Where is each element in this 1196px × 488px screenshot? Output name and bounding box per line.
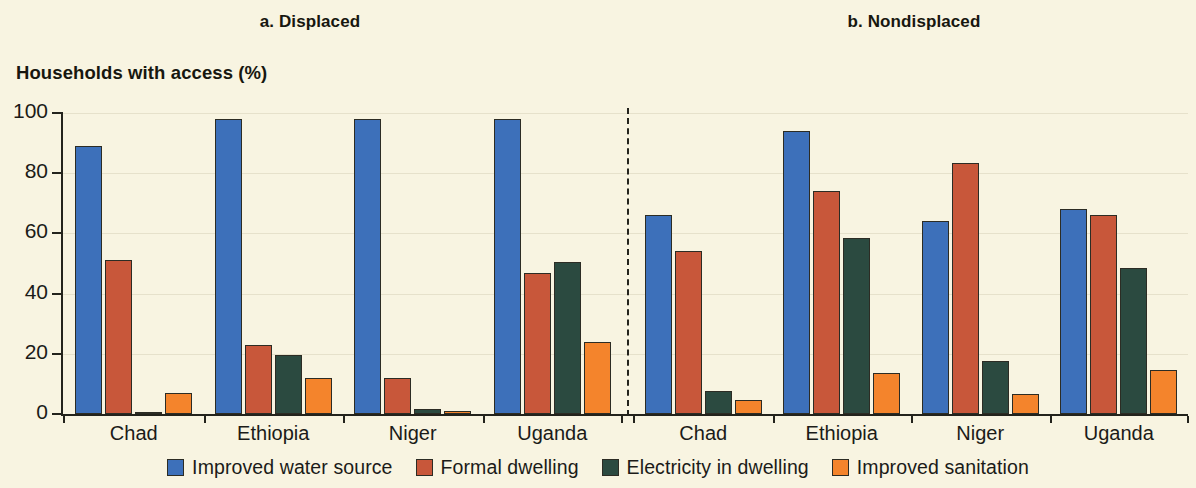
x-tick-label-b-niger: Niger — [911, 422, 1050, 445]
x-tick-mark — [343, 416, 345, 423]
bar-b-niger-improved-water-source — [922, 221, 949, 414]
bar-a-ethiopia-improved-sanitation — [305, 378, 332, 414]
legend-swatch-icon — [602, 459, 619, 476]
y-axis-title: Households with access (%) — [16, 62, 267, 84]
y-tick-label: 40 — [0, 280, 48, 304]
panel-divider — [627, 108, 629, 416]
chart-legend: Improved water sourceFormal dwellingElec… — [0, 456, 1196, 479]
y-tick-label: 0 — [0, 400, 48, 424]
y-tick-label: 60 — [0, 219, 48, 243]
x-tick-label-b-uganda: Uganda — [1050, 422, 1189, 445]
x-axis-line — [61, 414, 1188, 416]
legend-swatch-icon — [416, 459, 433, 476]
bar-b-uganda-improved-sanitation — [1150, 370, 1177, 414]
bar-a-ethiopia-electricity-in-dwelling — [275, 355, 302, 414]
bar-a-ethiopia-formal-dwelling — [245, 345, 272, 414]
chart-figure: a. Displaced b. Nondisplaced Households … — [0, 0, 1196, 488]
bar-a-chad-electricity-in-dwelling — [135, 412, 162, 414]
bar-b-uganda-electricity-in-dwelling — [1120, 268, 1147, 414]
y-tick-mark — [52, 232, 62, 234]
bar-b-ethiopia-formal-dwelling — [813, 191, 840, 414]
x-tick-mark — [911, 416, 913, 423]
legend-label: Formal dwelling — [441, 456, 579, 479]
x-tick-label-a-niger: Niger — [343, 422, 483, 445]
y-axis-line — [61, 112, 63, 416]
x-tick-label-b-ethiopia: Ethiopia — [773, 422, 912, 445]
bar-a-chad-formal-dwelling — [105, 260, 132, 414]
bar-b-chad-electricity-in-dwelling — [705, 391, 732, 414]
y-tick-mark — [52, 353, 62, 355]
x-tick-mark — [63, 416, 65, 423]
legend-item-improved-sanitation[interactable]: Improved sanitation — [832, 456, 1029, 479]
bar-a-niger-improved-water-source — [354, 119, 381, 414]
bar-b-niger-formal-dwelling — [952, 163, 979, 414]
x-tick-label-a-ethiopia: Ethiopia — [204, 422, 344, 445]
bar-b-uganda-formal-dwelling — [1090, 215, 1117, 414]
bar-a-chad-improved-sanitation — [165, 393, 192, 414]
x-tick-mark — [621, 416, 623, 423]
bar-b-chad-formal-dwelling — [675, 251, 702, 414]
bar-b-uganda-improved-water-source — [1060, 209, 1087, 414]
y-tick-mark — [52, 172, 62, 174]
bar-a-niger-improved-sanitation — [444, 411, 471, 414]
legend-label: Electricity in dwelling — [627, 456, 809, 479]
bar-a-uganda-formal-dwelling — [524, 273, 551, 414]
x-tick-mark — [204, 416, 206, 423]
y-tick-mark — [52, 293, 62, 295]
bar-a-niger-formal-dwelling — [384, 378, 411, 414]
x-tick-label-a-uganda: Uganda — [483, 422, 623, 445]
bar-a-chad-improved-water-source — [75, 146, 102, 414]
panel-title-nondisplaced: b. Nondisplaced — [632, 12, 1196, 32]
bar-a-uganda-improved-sanitation — [584, 342, 611, 414]
bar-a-uganda-improved-water-source — [494, 119, 521, 414]
y-tick-mark — [52, 112, 62, 114]
legend-label: Improved water source — [192, 456, 392, 479]
bar-a-ethiopia-improved-water-source — [215, 119, 242, 414]
x-tick-label-a-chad: Chad — [64, 422, 204, 445]
legend-item-electricity-in-dwelling[interactable]: Electricity in dwelling — [602, 456, 809, 479]
x-tick-mark — [1187, 416, 1189, 423]
y-tick-label: 100 — [0, 99, 48, 123]
y-tick-label: 80 — [0, 159, 48, 183]
bar-b-ethiopia-electricity-in-dwelling — [843, 238, 870, 414]
panel-title-displaced: a. Displaced — [0, 12, 620, 32]
x-tick-label-b-chad: Chad — [634, 422, 773, 445]
bar-b-niger-improved-sanitation — [1012, 394, 1039, 414]
legend-label: Improved sanitation — [857, 456, 1029, 479]
x-tick-mark — [1050, 416, 1052, 423]
bar-b-ethiopia-improved-sanitation — [873, 373, 900, 414]
x-tick-mark — [633, 416, 635, 423]
gridline — [62, 113, 1188, 114]
bar-b-niger-electricity-in-dwelling — [982, 361, 1009, 414]
bar-a-niger-electricity-in-dwelling — [414, 409, 441, 414]
bar-b-ethiopia-improved-water-source — [783, 131, 810, 414]
legend-swatch-icon — [167, 459, 184, 476]
y-tick-mark — [52, 413, 62, 415]
bar-b-chad-improved-sanitation — [735, 400, 762, 414]
bar-a-uganda-electricity-in-dwelling — [554, 262, 581, 414]
bar-b-chad-improved-water-source — [645, 215, 672, 414]
legend-item-improved-water-source[interactable]: Improved water source — [167, 456, 392, 479]
legend-item-formal-dwelling[interactable]: Formal dwelling — [416, 456, 579, 479]
x-tick-mark — [483, 416, 485, 423]
y-tick-label: 20 — [0, 340, 48, 364]
legend-swatch-icon — [832, 459, 849, 476]
x-tick-mark — [773, 416, 775, 423]
